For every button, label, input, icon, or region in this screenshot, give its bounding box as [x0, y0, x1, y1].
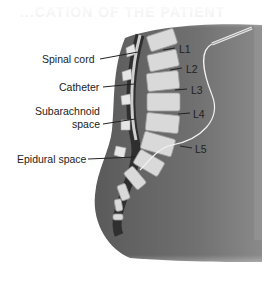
- label-catheter: Catheter: [59, 81, 99, 93]
- label-subarachnoid-line1: Subarachnoid: [35, 105, 100, 117]
- label-l1: L1: [179, 43, 191, 55]
- label-l3: L3: [191, 84, 203, 96]
- label-epidural-space: Epidural space: [17, 153, 86, 165]
- label-l5: L5: [195, 143, 207, 155]
- spine-epidural-diagram: ...CATION OF THE PATIENT: [0, 0, 279, 281]
- label-subarachnoid-line2: space: [72, 118, 100, 130]
- label-l2: L2: [186, 63, 198, 75]
- anatomy-illustration: [0, 0, 279, 281]
- label-spinal-cord: Spinal cord: [42, 53, 95, 65]
- label-l4: L4: [193, 108, 205, 120]
